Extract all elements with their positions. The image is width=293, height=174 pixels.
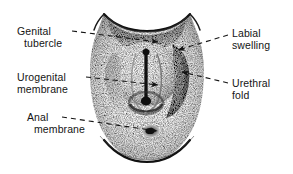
label-urethral-fold-line1: Urethral <box>232 77 270 89</box>
label-urethral-fold-line2: fold <box>232 90 270 102</box>
label-urogenital-membrane-line2: membrane <box>17 84 68 96</box>
label-urogenital-membrane: Urogenital membrane <box>17 72 68 95</box>
label-anal-membrane-line1: Anal <box>27 111 48 123</box>
embryology-figure: Genital tubercle Urogenital membrane Ana… <box>0 0 293 174</box>
label-genital-tubercle: Genital tubercle <box>17 26 62 49</box>
label-urethral-fold: Urethral fold <box>232 78 270 101</box>
label-anal-membrane: Anal membrane <box>27 112 85 135</box>
label-labial-swelling: Labial swelling <box>232 28 270 51</box>
label-urogenital-membrane-line1: Urogenital <box>17 71 66 83</box>
label-anal-membrane-line2: membrane <box>27 124 85 136</box>
label-labial-swelling-line1: Labial <box>232 27 261 39</box>
label-genital-tubercle-line2: tubercle <box>17 38 62 50</box>
label-genital-tubercle-line1: Genital <box>17 25 51 37</box>
label-labial-swelling-line2: swelling <box>232 40 270 52</box>
